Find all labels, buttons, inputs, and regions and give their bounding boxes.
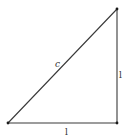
hypotenuse-label: c xyxy=(55,59,60,69)
vertex-bottom-left xyxy=(7,122,10,125)
vertex-top-right xyxy=(116,8,119,11)
vertex-bottom-right xyxy=(116,122,119,125)
hypotenuse-edge xyxy=(8,9,117,123)
vertical-leg-label: l xyxy=(119,70,122,80)
horizontal-leg-label: l xyxy=(65,127,68,137)
right-triangle-diagram: c l l xyxy=(0,0,129,139)
